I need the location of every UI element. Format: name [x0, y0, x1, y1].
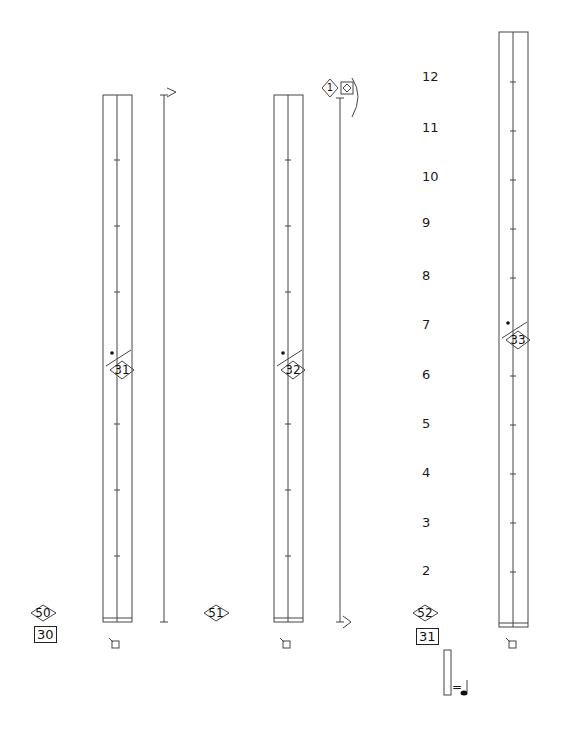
staff-1-marker-label: 31: [110, 362, 134, 378]
staff-2: [274, 95, 303, 622]
duration-line-1: [160, 88, 176, 622]
box-label-31: 31: [416, 628, 439, 645]
staff-3: [499, 32, 528, 627]
legend-equals: =: [452, 680, 462, 694]
staff-3-foot-icon: [506, 638, 516, 648]
scale-number-4: 4: [422, 465, 430, 480]
staff-2-foot-icon: [280, 638, 290, 648]
top-marker-inner-diamond: [343, 84, 351, 92]
scale-number-3: 3: [422, 515, 430, 530]
legend-rect: [444, 650, 451, 695]
section-label-50: 50: [31, 605, 55, 621]
top-marker-label: 1: [318, 80, 342, 96]
section-label-51: 51: [204, 605, 228, 621]
staff-2-marker-label: 32: [281, 362, 305, 378]
scale-number-10: 10: [422, 169, 439, 184]
scale-number-5: 5: [422, 416, 430, 431]
staff-1: [103, 95, 132, 622]
scale-number-2: 2: [422, 563, 430, 578]
scale-number-12: 12: [422, 69, 439, 84]
scale-number-8: 8: [422, 268, 430, 283]
scale-number-9: 9: [422, 215, 430, 230]
box-label-30: 30: [34, 626, 57, 643]
staff-3-marker-label: 33: [506, 332, 530, 348]
staff-1-foot-icon: [109, 638, 119, 648]
section-label-52: 52: [413, 605, 437, 621]
scale-number-6: 6: [422, 367, 430, 382]
scale-number-7: 7: [422, 317, 430, 332]
duration-line-2: [336, 78, 358, 628]
scale-number-11: 11: [422, 120, 439, 135]
